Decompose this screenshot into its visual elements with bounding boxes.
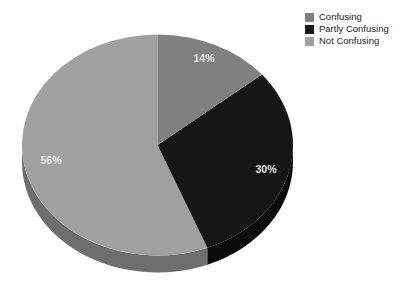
pie-chart-figure: 14% 30% 56% Confusing Partly Confusing N… [0,0,404,299]
legend-swatch-not-confusing [305,37,314,46]
legend-swatch-confusing [305,13,314,22]
legend-item-partly-confusing[interactable]: Partly Confusing [305,23,401,35]
chart-legend: Confusing Partly Confusing Not Confusing [305,11,401,47]
legend-label-not-confusing: Not Confusing [319,35,379,47]
legend-item-not-confusing[interactable]: Not Confusing [305,35,401,47]
legend-item-confusing[interactable]: Confusing [305,11,401,23]
legend-label-partly-confusing: Partly Confusing [319,23,389,35]
data-label-partly-confusing: 30% [255,163,277,175]
pie-3d-group [22,35,293,273]
legend-swatch-partly-confusing [305,25,314,34]
data-label-not-confusing: 56% [40,154,62,166]
legend-label-confusing: Confusing [319,11,362,23]
data-label-confusing: 14% [193,52,215,64]
